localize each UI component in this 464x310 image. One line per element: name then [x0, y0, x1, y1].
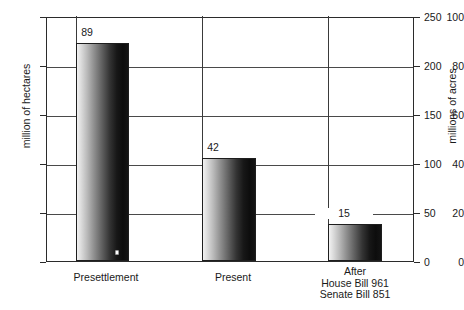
- y2-tick-mark-50: [414, 213, 420, 214]
- y2-tick-label-50: 50: [424, 208, 458, 219]
- y2-tick-mark-250: [414, 17, 420, 18]
- bar-presettlement[interactable]: [76, 43, 129, 261]
- y2-tick-label-0: 0: [424, 257, 458, 268]
- y2-tick-label-200: 200: [424, 61, 458, 72]
- y2-tick-label-150: 150: [424, 110, 458, 121]
- bar-speck-artifact: [115, 250, 119, 255]
- y-axis-title-right: millions of acres: [446, 36, 458, 176]
- plot-area: [46, 17, 414, 262]
- y2-tick-mark-200: [414, 66, 420, 67]
- bar-chart: million of hectares millions of acres 10…: [0, 0, 464, 310]
- bar-after[interactable]: [328, 224, 382, 261]
- x-category-label-after-line3: Senate Bill 851: [289, 289, 421, 301]
- y2-tick-mark-150: [414, 115, 420, 116]
- y-tick-mark-0: [40, 262, 46, 263]
- y2-tick-mark-100: [414, 164, 420, 165]
- bar-value-after: 15: [315, 208, 373, 219]
- y2-tick-label-250: 250: [424, 12, 458, 23]
- y2-tick-mark-0: [414, 262, 420, 263]
- x-category-label-present: Present: [167, 272, 299, 284]
- x-category-label-presettlement: Presettlement: [40, 272, 172, 284]
- x-category-label-after: After House Bill 961 Senate Bill 851: [289, 266, 421, 301]
- bar-present[interactable]: [202, 158, 256, 261]
- y2-tick-label-100: 100: [424, 159, 458, 170]
- bar-value-presettlement: 89: [60, 27, 114, 38]
- x-category-label-after-line1: After: [289, 266, 421, 278]
- bar-value-present: 42: [186, 142, 240, 153]
- y-axis-title-left: million of hectares: [20, 36, 32, 176]
